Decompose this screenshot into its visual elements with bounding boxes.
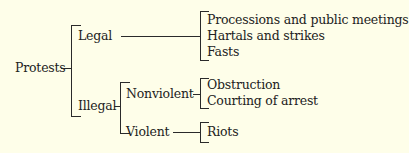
node-nonviolent: Nonviolent [126,86,194,102]
connector-nonviolent [193,94,200,95]
bracket-violent [200,122,201,143]
item-processions: Processions and public meetings [207,12,409,28]
node-violent: Violent [126,124,169,140]
bracket-illegal [120,82,121,134]
connector-protests [61,68,71,69]
item-riots: Riots [207,124,238,140]
connector-violent [173,132,200,133]
node-illegal: Illegal [78,98,116,114]
connector-legal [121,36,200,37]
item-fasts: Fasts [207,44,239,60]
bracket-nonviolent [200,78,201,109]
bracket-violent-bottom [200,142,209,143]
item-hartals: Hartals and strikes [207,28,325,44]
node-legal: Legal [78,28,112,44]
bracket-illegal-top [120,82,130,83]
bracket-main-bottom [71,116,81,117]
node-protests: Protests [15,60,66,76]
bracket-main-top [71,25,81,26]
item-obstruction: Obstruction [207,77,280,93]
bracket-legal [200,11,201,61]
item-courting-of-arrest: Courting of arrest [207,93,318,109]
bracket-main [71,25,72,117]
bracket-legal-bottom [200,60,209,61]
